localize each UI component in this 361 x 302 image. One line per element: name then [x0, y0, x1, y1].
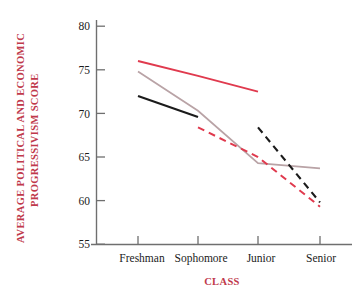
- x-tick-label-freshman: Freshman: [119, 252, 165, 264]
- y-tick-label-55: 55: [79, 238, 91, 250]
- y-tick-label-60: 60: [79, 195, 91, 207]
- y-tick-label-75: 75: [79, 64, 91, 76]
- series-pink-gray: [138, 72, 320, 169]
- y-axis-title: AVERAGE POLITICAL AND ECONOMIC PROGRESSI…: [15, 33, 40, 243]
- progressivism-line-chart: AVERAGE POLITICAL AND ECONOMIC PROGRESSI…: [0, 0, 361, 302]
- y-tick-label-70: 70: [79, 108, 91, 120]
- x-axis-ticks: [138, 236, 320, 245]
- y-axis-tick-labels: 80 75 70 65 60 55: [79, 20, 91, 250]
- x-axis-tick-labels: Freshman Sophomore Junior Senior: [119, 252, 336, 265]
- y-tick-label-80: 80: [79, 20, 91, 32]
- x-tick-label-junior: Junior: [247, 252, 276, 264]
- series-solid-black: [138, 96, 198, 117]
- x-tick-label-senior: Senior: [306, 252, 336, 264]
- data-series-layer: [138, 61, 320, 207]
- y-axis-title-line2: PROGRESSIVISM SCORE: [29, 73, 40, 207]
- x-axis-title: CLASS: [204, 276, 240, 287]
- chart-canvas: AVERAGE POLITICAL AND ECONOMIC PROGRESSI…: [0, 0, 361, 302]
- x-tick-label-sophomore: Sophomore: [174, 252, 227, 265]
- y-axis-title-line1: AVERAGE POLITICAL AND ECONOMIC: [15, 33, 26, 243]
- series-dashed-black: [258, 127, 320, 202]
- y-axis-ticks: [97, 26, 106, 244]
- series-solid-red: [138, 61, 258, 92]
- y-tick-label-65: 65: [79, 151, 91, 163]
